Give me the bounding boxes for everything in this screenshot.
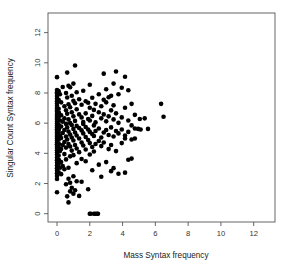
data-point [123, 105, 128, 110]
data-point [86, 100, 91, 105]
data-point [111, 117, 116, 122]
x-tick-label: 12 [249, 229, 257, 238]
data-point [79, 157, 84, 162]
data-point [68, 105, 73, 110]
data-point [74, 161, 79, 166]
data-point [62, 104, 67, 109]
data-point [114, 111, 119, 116]
data-point [123, 74, 128, 79]
y-tick-label: 6 [33, 121, 42, 125]
y-tick-label: 0 [33, 212, 42, 216]
x-tick-label: 6 [153, 229, 157, 238]
data-point [133, 113, 138, 118]
data-point [87, 152, 92, 157]
data-point [126, 118, 131, 123]
y-tick-label: 10 [33, 59, 42, 67]
data-point [66, 165, 71, 170]
data-point [74, 179, 79, 184]
data-point [116, 92, 121, 97]
data-point [65, 194, 70, 199]
data-point [71, 174, 76, 179]
x-tick-label: 0 [55, 229, 59, 238]
data-point [104, 128, 109, 133]
data-point [90, 114, 95, 119]
data-point [99, 116, 104, 121]
data-point [146, 127, 151, 132]
data-point [56, 107, 61, 112]
y-axis-title: Singular Count Syntax frequency [6, 57, 15, 178]
data-point [73, 119, 78, 124]
data-point [79, 115, 84, 120]
data-point [68, 85, 73, 90]
data-point [104, 87, 109, 92]
data-point [133, 136, 138, 141]
x-tick-label: 2 [88, 229, 92, 238]
data-point [69, 93, 74, 98]
data-point [62, 167, 67, 172]
data-point [99, 174, 104, 179]
data-point [129, 102, 134, 107]
data-point [138, 127, 143, 132]
data-point [73, 101, 78, 106]
data-point [104, 100, 109, 105]
data-point [111, 103, 116, 108]
y-tick-label: 12 [33, 28, 42, 36]
data-point [104, 119, 109, 124]
data-point [83, 111, 88, 116]
data-point [68, 144, 73, 149]
data-point [97, 162, 102, 167]
data-point [56, 153, 61, 158]
data-point [109, 93, 114, 98]
data-point [69, 148, 74, 153]
data-point [159, 102, 164, 107]
data-point [106, 114, 111, 119]
data-point [66, 200, 71, 205]
data-point [77, 150, 82, 155]
data-point [116, 121, 121, 126]
data-point [129, 156, 134, 161]
data-point [87, 82, 92, 87]
data-point [71, 81, 76, 86]
data-point [106, 147, 111, 152]
data-point [81, 88, 86, 93]
data-point [90, 96, 95, 101]
data-point [59, 160, 64, 165]
data-point [60, 85, 65, 90]
data-point [114, 69, 119, 74]
data-point [64, 182, 69, 187]
data-point [111, 134, 116, 139]
data-point [55, 190, 60, 195]
data-point [65, 95, 70, 100]
data-point [81, 143, 86, 148]
data-point [73, 63, 78, 68]
data-point [101, 71, 106, 76]
data-point [79, 102, 84, 107]
data-point [109, 125, 114, 130]
data-point [62, 116, 67, 121]
data-point [69, 110, 74, 115]
data-point [96, 211, 101, 216]
data-point [87, 141, 92, 146]
data-point [119, 115, 124, 120]
data-point [109, 108, 114, 113]
data-point [65, 112, 70, 117]
data-point [101, 112, 106, 117]
y-tick-label: 8 [33, 91, 42, 95]
data-point [93, 102, 98, 107]
data-point [123, 170, 128, 175]
data-point [83, 159, 88, 164]
data-point [97, 92, 102, 97]
data-point [137, 117, 142, 122]
data-point [111, 166, 116, 171]
data-point [92, 108, 97, 113]
data-point [62, 152, 67, 157]
data-point [65, 137, 70, 142]
data-point [59, 147, 64, 152]
data-point [97, 110, 102, 115]
data-point [109, 143, 114, 148]
x-tick-label: 4 [120, 229, 124, 238]
data-point [116, 131, 121, 136]
data-point [97, 126, 102, 131]
data-point [119, 85, 124, 90]
data-point [77, 97, 82, 102]
